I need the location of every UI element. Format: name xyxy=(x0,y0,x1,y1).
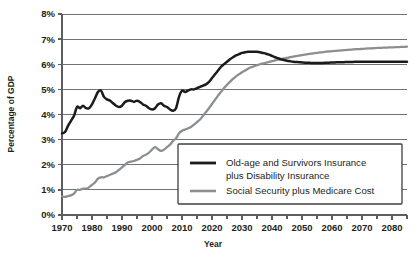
legend-label-oasdi-line2: plus Disability Insurance xyxy=(226,170,329,181)
chart-container: 0%1%2%3%4%5%6%7%8% 197019801990200020102… xyxy=(0,0,414,261)
chart-figure: 0%1%2%3%4%5%6%7%8% 197019801990200020102… xyxy=(0,0,414,261)
y-tick-label-4: 4% xyxy=(41,109,55,120)
x-tick-label-1970: 1970 xyxy=(51,222,72,233)
x-tick-label-2010: 2010 xyxy=(171,222,192,233)
chart-legend: Old-age and Survivors Insurance plus Dis… xyxy=(178,144,402,204)
y-tick-label-7: 7% xyxy=(41,34,55,45)
y-tick-label-0: 0% xyxy=(41,209,55,220)
x-tick-label-2040: 2040 xyxy=(261,222,282,233)
y-tick-label-6: 6% xyxy=(41,59,55,70)
legend-label-oasdi-line1: Old-age and Survivors Insurance xyxy=(226,157,366,168)
y-axis-title: Percentage of GDP xyxy=(6,75,16,152)
y-axis-tick-labels: 0%1%2%3%4%5%6%7%8% xyxy=(41,8,55,220)
x-tick-label-2050: 2050 xyxy=(291,222,312,233)
y-tick-label-2: 2% xyxy=(41,159,55,170)
y-tick-label-8: 8% xyxy=(41,8,55,19)
x-tick-label-2080: 2080 xyxy=(381,222,402,233)
y-tick-label-5: 5% xyxy=(41,84,55,95)
x-tick-label-2030: 2030 xyxy=(231,222,252,233)
y-tick-label-3: 3% xyxy=(41,134,55,145)
x-tick-label-1980: 1980 xyxy=(81,222,102,233)
x-tick-label-1990: 1990 xyxy=(111,222,132,233)
y-tick-label-1: 1% xyxy=(41,184,55,195)
x-axis-title: Year xyxy=(204,239,223,249)
x-tick-label-2070: 2070 xyxy=(351,222,372,233)
legend-label-social-security-medicare: Social Security plus Medicare Cost xyxy=(226,185,375,196)
x-tick-label-2060: 2060 xyxy=(321,222,342,233)
x-tick-label-2000: 2000 xyxy=(141,222,162,233)
x-tick-label-2020: 2020 xyxy=(201,222,222,233)
